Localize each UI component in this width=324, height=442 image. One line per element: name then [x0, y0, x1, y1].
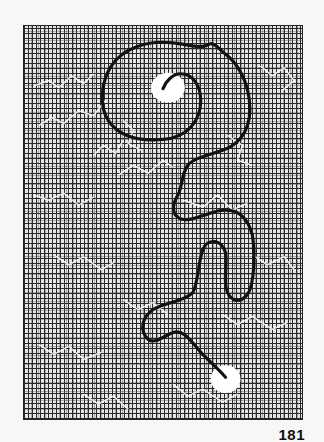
page-number: 181 — [278, 426, 305, 442]
maze-overlay — [24, 26, 302, 419]
end-circle — [211, 365, 241, 393]
open-paths — [34, 66, 294, 409]
start-circle — [151, 73, 185, 103]
maze-grid — [23, 25, 303, 420]
